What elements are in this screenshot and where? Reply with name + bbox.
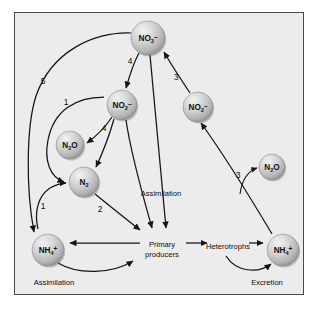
diagram-frame xyxy=(14,12,304,295)
nitrogen-cycle-figure: NO3–NO2–N2ON2NH4+NO2–N2ONH4+ 51144233 As… xyxy=(0,0,316,312)
